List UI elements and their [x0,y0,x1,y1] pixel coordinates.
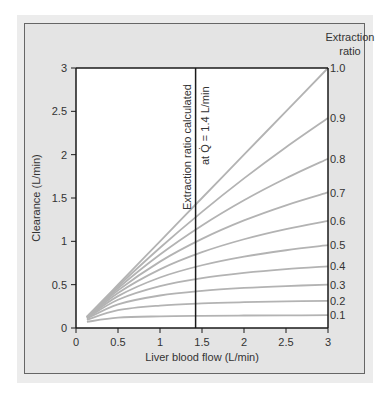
x-tick-label: 0 [73,336,79,348]
extraction-ratio-label: 0.5 [330,239,345,251]
extraction-ratio-label: 0.4 [330,260,345,272]
extraction-ratio-label: 0.1 [330,309,345,321]
x-tick-label: 1 [157,336,163,348]
x-axis-title: Liver blood flow (L/min) [145,351,259,363]
y-tick-label: 1 [61,235,67,247]
y-tick-label: 0 [61,322,67,334]
y-tick-label: 1.5 [52,192,67,204]
x-tick-label: 0.5 [110,336,125,348]
extraction-ratio-label: 0.7 [330,187,345,199]
extraction-ratio-label: 1.0 [330,62,345,74]
x-tick-label: 2 [241,336,247,348]
annotation-text-line2: at Q̇ = 1.4 L/min [199,86,211,165]
extraction-ratio-label: 0.6 [330,215,345,227]
extraction-ratio-label: 0.2 [330,295,345,307]
legend-title-line2: ratio [339,45,360,57]
x-tick-label: 2.5 [278,336,293,348]
y-tick-label: 0.5 [52,279,67,291]
x-tick-label: 1.5 [194,336,209,348]
annotation-text-line1: Extraction ratio calculated [181,84,193,210]
x-tick-label: 3 [325,336,331,348]
extraction-ratio-label: 0.3 [330,279,345,291]
y-tick-label: 2 [61,149,67,161]
y-tick-label: 3 [61,62,67,74]
figure: 00.511.522.53 00.511.522.53 Liver blood … [0,0,384,400]
legend-title-line1: Extraction [326,31,375,43]
extraction-ratio-label: 0.8 [330,153,345,165]
extraction-ratio-label: 0.9 [330,112,345,124]
y-axis-title: Clearance (L/min) [30,154,42,241]
y-tick-label: 2.5 [52,105,67,117]
